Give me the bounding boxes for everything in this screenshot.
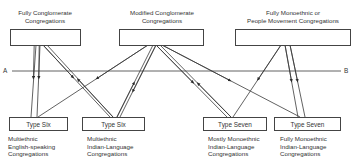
top-node-box-fully-monoethnic — [235, 29, 351, 46]
top-node-label-fully-conglomerate: Fully Conglomerate Congregations — [4, 9, 86, 24]
top-node-box-modified-conglomerate — [119, 29, 204, 46]
divider-label-b: B — [344, 67, 348, 74]
bottom-node-caption-type-six-indian: Multiethnic Indian-Language Congregation… — [87, 135, 133, 158]
bottom-node-box-type-six-english: Type Six — [9, 117, 68, 131]
bottom-node-caption-type-seven-mostly: Mostly Monoethnic Indian-Language Congre… — [208, 135, 260, 158]
bottom-node-box-type-six-indian: Type Six — [82, 117, 145, 131]
bottom-node-box-type-seven-fully: Type Seven — [274, 117, 341, 131]
diagram-canvas: Fully Conglomerate Congregations Modifie… — [0, 0, 353, 164]
edge-modified-to-type-seven-fully — [162, 45, 300, 117]
box-label: Type Seven — [204, 118, 266, 130]
bottom-node-caption-type-six-english: Multiethnic English-speaking Congregatio… — [8, 135, 55, 158]
edge-fully-conglomerate-type-six-indian — [43, 45, 113, 117]
bottom-node-box-type-seven-mostly: Type Seven — [203, 117, 267, 131]
box-label: Type Seven — [275, 118, 340, 130]
edge-modified-type-seven-mostly — [156, 45, 231, 117]
edge-modified-type-six-indian — [117, 45, 156, 117]
top-node-box-fully-conglomerate — [10, 29, 81, 46]
top-node-label-fully-monoethnic: Fully Monoethnic or People Movement Cong… — [234, 9, 352, 24]
top-node-label-modified-conglomerate: Modified Conglomerate Congregations — [112, 9, 212, 24]
edge-fully-monoethnic-to-type-seven-fully — [285, 45, 305, 117]
edge-fully-monoethnic-to-type-seven-mostly — [233, 45, 281, 117]
edge-fully-conglomerate-to-type-six-english — [31, 45, 40, 117]
bottom-node-caption-type-seven-fully: Fully Monoethnic Indian-Language Congreg… — [280, 135, 327, 158]
box-label: Type Six — [83, 118, 144, 130]
divider-label-a: A — [3, 67, 7, 74]
box-label: Type Six — [10, 118, 67, 130]
edge-type-six-english-to-modified — [38, 45, 148, 117]
